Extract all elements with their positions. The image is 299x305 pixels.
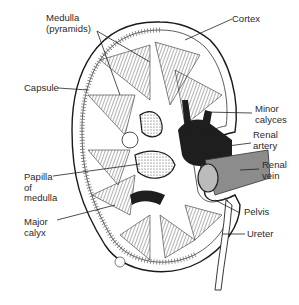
label-renal-artery: Renal artery	[253, 130, 278, 151]
label-cortex: Cortex	[232, 14, 260, 25]
label-renal-vein: Renal vein	[262, 160, 287, 181]
kidney-illustration	[0, 0, 299, 305]
label-papilla: Papilla of medulla	[24, 172, 57, 204]
label-capsule: Capsule	[24, 83, 59, 94]
label-ureter: Ureter	[247, 229, 273, 240]
label-medulla: Medulla (pyramids)	[46, 13, 91, 34]
label-minor-calyces: Minor calyces	[255, 104, 287, 125]
label-major-calyx: Major calyx	[24, 217, 48, 238]
label-pelvis: Pelvis	[244, 207, 269, 218]
